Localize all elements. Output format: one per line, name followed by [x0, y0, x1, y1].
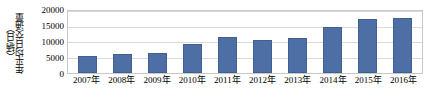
- y-axis-tick-label: 10000: [42, 38, 65, 47]
- y-axis-tick-label: 20000: [42, 6, 65, 15]
- bar-slot: [350, 11, 385, 73]
- plot-area: [67, 10, 423, 74]
- bar: [358, 19, 377, 73]
- bar: [78, 56, 97, 73]
- bar: [253, 40, 272, 73]
- bar-slot: [140, 11, 175, 73]
- x-axis-tick-label: 2008年: [104, 76, 139, 96]
- x-axis-tick-label: 2012年: [245, 76, 280, 96]
- bar-slot: [210, 11, 245, 73]
- x-axis-tick-label: 2010年: [175, 76, 210, 96]
- y-axis-title-label: 年平均日交通量: [15, 13, 24, 74]
- bar-chart: （辆/日） 年平均日交通量 05000100001500020000 2007年…: [0, 0, 430, 100]
- x-axis-labels: 2007年2008年2009年2010年2011年2012年2013年2014年…: [67, 76, 423, 96]
- y-axis-ticks: 05000100001500020000: [26, 10, 64, 74]
- x-axis-tick-label: 2007年: [69, 76, 104, 96]
- bar-slot: [385, 11, 420, 73]
- bar: [288, 38, 307, 73]
- y-axis-tick-label: 5000: [46, 54, 64, 63]
- bar: [148, 53, 167, 73]
- bar-slot: [245, 11, 280, 73]
- bar: [393, 18, 412, 73]
- bar-slot: [70, 11, 105, 73]
- bar: [323, 27, 342, 73]
- bar-slot: [280, 11, 315, 73]
- bar-slot: [315, 11, 350, 73]
- bar: [218, 37, 237, 73]
- bar: [183, 44, 202, 73]
- y-axis-tick-label: 15000: [42, 22, 65, 31]
- bar-series: [68, 11, 422, 73]
- y-axis-tick-label: 0: [60, 70, 65, 79]
- x-axis-tick-label: 2013年: [280, 76, 315, 96]
- x-axis-tick-label: 2009年: [139, 76, 174, 96]
- x-axis-tick-label: 2016年: [386, 76, 421, 96]
- bar-slot: [105, 11, 140, 73]
- x-axis-tick-label: 2015年: [351, 76, 386, 96]
- bar: [113, 54, 132, 73]
- bar-slot: [175, 11, 210, 73]
- x-axis-tick-label: 2014年: [315, 76, 350, 96]
- x-axis-tick-label: 2011年: [210, 76, 245, 96]
